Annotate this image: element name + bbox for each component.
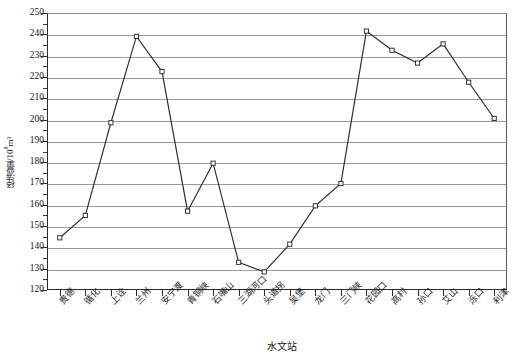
y-axis-minor-tick-mark	[43, 130, 47, 131]
data-series-layer	[47, 13, 507, 290]
data-point-marker	[288, 242, 292, 246]
y-axis-tick-label: 130	[16, 264, 44, 274]
y-axis-tick-mark	[41, 269, 47, 270]
y-axis-minor-tick-mark	[43, 88, 47, 89]
data-point-marker	[467, 80, 471, 84]
y-axis-tick-label: 250	[16, 8, 44, 18]
y-axis-tick-mark	[41, 120, 47, 121]
x-axis-title-text: 水文站	[267, 341, 297, 352]
y-axis-tick-label: 240	[16, 29, 44, 39]
y-axis-minor-tick-mark	[43, 109, 47, 110]
y-axis-tick-mark	[41, 205, 47, 206]
y-axis-tick-mark	[41, 13, 47, 14]
y-axis-tick-mark	[41, 77, 47, 78]
y-axis-minor-tick-mark	[43, 45, 47, 46]
data-point-marker	[339, 181, 343, 185]
data-point-marker	[262, 270, 266, 274]
data-point-marker	[83, 213, 87, 217]
data-point-marker	[211, 161, 215, 165]
data-point-marker	[109, 121, 113, 125]
y-axis-tick-label: 160	[16, 200, 44, 210]
y-axis-tick-label: 150	[16, 221, 44, 231]
y-axis-tick-label: 220	[16, 72, 44, 82]
y-axis-tick-mark	[41, 183, 47, 184]
y-axis-tick-mark	[41, 98, 47, 99]
y-axis-tick-mark	[41, 141, 47, 142]
y-axis-title-exponent: 8	[3, 146, 9, 149]
data-point-marker	[237, 260, 241, 264]
y-axis-minor-tick-mark	[43, 173, 47, 174]
y-axis-minor-tick-mark	[43, 237, 47, 238]
y-axis-tick-label: 180	[16, 157, 44, 167]
y-axis-tick-label: 170	[16, 178, 44, 188]
y-axis-tick-labels: 1201301401501601701801902002102202302402…	[12, 0, 44, 359]
y-axis-tick-label: 210	[16, 93, 44, 103]
data-point-marker	[185, 209, 189, 213]
y-axis-tick-mark	[41, 162, 47, 163]
y-axis-minor-tick-mark	[43, 258, 47, 259]
data-point-marker	[134, 34, 138, 38]
y-axis-minor-tick-mark	[43, 24, 47, 25]
data-point-marker	[492, 116, 496, 120]
data-point-marker	[415, 61, 419, 65]
data-point-marker	[364, 29, 368, 33]
x-axis-title: 水文站	[0, 338, 516, 353]
y-axis-minor-tick-mark	[43, 215, 47, 216]
y-axis-tick-label: 140	[16, 242, 44, 252]
data-point-marker	[441, 42, 445, 46]
y-axis-minor-tick-mark	[43, 152, 47, 153]
y-axis-tick-label: 200	[16, 115, 44, 125]
runoff-line-chart: 径流量/108m³ 120130140150160170180190200210…	[0, 0, 516, 359]
data-point-marker	[313, 204, 317, 208]
data-point-marker	[160, 70, 164, 74]
y-axis-tick-label: 120	[16, 285, 44, 295]
y-axis-minor-tick-mark	[43, 279, 47, 280]
y-axis-tick-mark	[41, 290, 47, 291]
y-axis-tick-mark	[41, 56, 47, 57]
y-axis-tick-label: 230	[16, 51, 44, 61]
y-axis-tick-mark	[41, 34, 47, 35]
y-axis-tick-label: 190	[16, 136, 44, 146]
data-point-marker	[390, 48, 394, 52]
series-line	[60, 31, 494, 272]
y-axis-tick-mark	[41, 247, 47, 248]
y-axis-minor-tick-mark	[43, 66, 47, 67]
data-point-marker	[58, 236, 62, 240]
y-axis-tick-mark	[41, 226, 47, 227]
y-axis-minor-tick-mark	[43, 194, 47, 195]
